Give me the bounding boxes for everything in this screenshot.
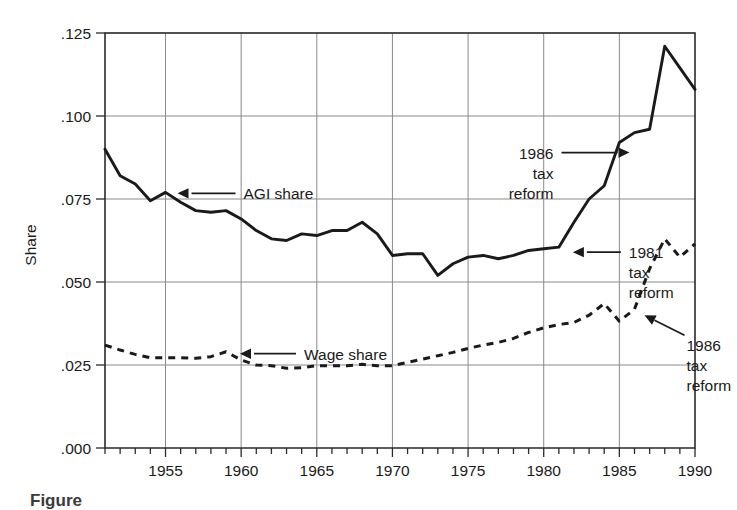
x-axis-tick-labels: 19551960196519701975198019851990 (148, 462, 712, 479)
annotation-line: tax (533, 165, 554, 182)
axis-ticks (96, 33, 695, 457)
annotation-line: tax (686, 357, 707, 374)
annotation-label-1981: 1981taxreform (629, 244, 674, 301)
x-tick-label: 1965 (300, 462, 334, 479)
y-tick-label: .025 (61, 357, 91, 374)
gridlines (105, 33, 695, 448)
y-axis-title: Share (22, 224, 39, 265)
arrow-head-right-icon (618, 147, 629, 157)
annotation-line: 1986 (686, 337, 720, 354)
x-tick-label: 1970 (375, 462, 410, 479)
x-tick-label: 1990 (678, 462, 713, 479)
plot-frame (105, 33, 695, 448)
x-tick-label: 1955 (148, 462, 182, 479)
y-tick-label: .075 (61, 191, 91, 208)
annotation-line: reform (509, 185, 554, 202)
annotation-line: reform (629, 284, 674, 301)
annotation-1981-tax-reform: 1981taxreform (573, 244, 674, 301)
annotation-label-1986-upper: 1986taxreform (509, 145, 554, 202)
annotation-line: AGI share (244, 185, 314, 202)
x-tick-label: 1960 (224, 462, 259, 479)
share-line-chart: .000.025.050.075.100.125 195519601965197… (0, 0, 737, 510)
annotation-1986-tax-reform-upper: 1986taxreform (509, 145, 630, 202)
annotation-line: 1986 (519, 145, 553, 162)
y-tick-label: .125 (61, 25, 91, 42)
annotation-label-1986-lower: 1986taxreform (686, 337, 731, 394)
x-tick-label: 1985 (602, 462, 636, 479)
plot-border (105, 33, 695, 448)
y-tick-label: .100 (61, 108, 92, 125)
y-tick-label: .050 (61, 274, 92, 291)
arrow-head-left-icon (240, 349, 251, 359)
x-tick-label: 1975 (451, 462, 485, 479)
x-tick-label: 1980 (526, 462, 561, 479)
annotation-leader-line (654, 320, 684, 335)
annotation-line: Wage share (304, 346, 387, 363)
annotation-line: reform (686, 377, 731, 394)
arrow-head-left-icon (178, 188, 189, 198)
data-series (105, 46, 695, 368)
y-axis-tick-labels: .000.025.050.075.100.125 (61, 25, 92, 457)
annotation-1986-tax-reform-lower: 1986taxreform (644, 315, 731, 394)
annotation-label-agi-share: AGI share (244, 185, 314, 202)
annotation-line: tax (629, 264, 650, 281)
annotation-wage-share: Wage share (240, 346, 387, 363)
annotation-line: 1981 (629, 244, 663, 261)
arrow-head-left-icon (573, 247, 584, 257)
annotation-agi-share: AGI share (178, 185, 314, 202)
annotation-label-wage-share: Wage share (304, 346, 387, 363)
y-tick-label: .000 (61, 440, 92, 457)
figure-root: .000.025.050.075.100.125 195519601965197… (0, 0, 737, 510)
wage-share-line (105, 239, 695, 368)
agi-share-line (105, 46, 695, 275)
figure-caption: Figure (30, 491, 82, 510)
annotations: AGI shareWage share1986taxreform1981taxr… (178, 145, 732, 395)
